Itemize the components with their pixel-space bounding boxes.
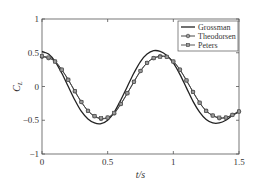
series-line-peters <box>42 56 239 118</box>
square-marker <box>152 57 155 60</box>
legend-label-grossman: Grossman <box>198 23 230 32</box>
legend-label-theodorsen: Theodorsen <box>198 32 236 41</box>
x-tick-label: 1.5 <box>233 157 245 167</box>
y-tick-label: −0.5 <box>23 115 40 125</box>
square-marker <box>93 115 96 118</box>
square-marker <box>231 113 234 116</box>
y-tick-label: 0.5 <box>28 48 40 58</box>
line-chart: 00.511.5−1−0.500.51 GrossmanTheodorsenPe… <box>0 0 253 183</box>
series-line-grossman <box>42 51 239 124</box>
square-marker <box>237 110 240 113</box>
legend: GrossmanTheodorsenPeters <box>178 21 238 51</box>
square-marker <box>211 114 214 117</box>
x-tick-label: 0 <box>40 157 45 167</box>
square-marker <box>40 55 43 58</box>
x-tick-label: 1 <box>171 157 176 167</box>
square-marker <box>165 55 168 58</box>
square-marker <box>119 102 122 105</box>
square-marker <box>178 68 181 71</box>
y-tick-label: −1 <box>29 149 39 159</box>
square-marker <box>185 79 188 82</box>
series-lines <box>40 51 241 124</box>
y-axis-label: CL <box>11 81 24 92</box>
y-tick-label: 1 <box>35 14 40 24</box>
square-marker <box>54 60 57 63</box>
square-marker <box>159 55 162 58</box>
square-marker <box>100 117 103 120</box>
square-marker <box>191 90 194 93</box>
square-marker <box>80 100 83 103</box>
legend-square-marker <box>186 43 189 46</box>
square-marker <box>126 92 129 95</box>
square-marker <box>198 101 201 104</box>
square-marker <box>205 109 208 112</box>
y-tick-label: 0 <box>35 82 40 92</box>
square-marker <box>218 116 221 119</box>
square-marker <box>106 116 109 119</box>
square-marker <box>224 116 227 119</box>
square-marker <box>60 68 63 71</box>
x-axis-label: t/s <box>136 169 146 180</box>
square-marker <box>132 80 135 83</box>
legend-label-peters: Peters <box>198 41 218 50</box>
square-marker <box>67 78 70 81</box>
square-marker <box>113 111 116 114</box>
square-marker <box>47 56 50 59</box>
legend-circle-marker <box>186 34 190 38</box>
square-marker <box>73 90 76 93</box>
series-line-theodorsen <box>42 56 239 119</box>
chart-container: 00.511.5−1−0.500.51 GrossmanTheodorsenPe… <box>0 0 253 183</box>
square-marker <box>86 109 89 112</box>
square-marker <box>145 61 148 64</box>
square-marker <box>139 69 142 72</box>
square-marker <box>172 60 175 63</box>
x-tick-label: 0.5 <box>102 157 114 167</box>
